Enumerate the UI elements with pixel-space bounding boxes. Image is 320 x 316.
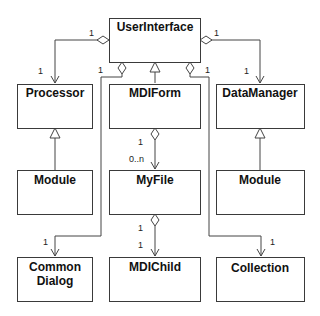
aggregation-diamond-ui-commondialog [118,62,126,74]
mult-ui-datamanager-from: 1 [214,28,219,38]
mult-ui-commondialog-to: 1 [43,237,48,247]
edge-ui-datamanager [208,40,260,83]
generalization-triangle-processor [50,128,60,138]
aggregation-diamond-myfile-mdichild [151,214,159,226]
mult-ui-collection-to: 1 [270,237,275,247]
class-title-processor: Processor [26,86,85,100]
mult-myfile-mdichild-from: 1 [138,223,143,233]
class-title-module-right: Module [239,173,281,187]
aggregation-diamond-mdiform-myfile [151,128,159,140]
edge-ui-processor [55,40,102,83]
class-title-module-left: Module [34,173,76,187]
class-title-commondialog-line2: Dialog [37,274,74,288]
class-processor[interactable]: Processor [18,85,93,129]
class-commondialog[interactable]: Common Dialog [18,258,93,302]
class-title-mdichild: MDIChild [129,260,181,274]
class-datamanager[interactable]: DataManager [217,85,305,129]
class-mdiform[interactable]: MDIForm [110,85,201,129]
aggregation-diamond-ui-processor [97,36,109,44]
class-userinterface[interactable]: UserInterface [110,19,201,63]
aggregation-diamond-ui-collection [186,62,194,74]
class-title-mdiform: MDIForm [129,86,181,100]
aggregation-diamond-ui-datamanager [200,36,212,44]
mult-myfile-mdichild-to: 1 [138,240,143,250]
class-title-datamanager: DataManager [222,86,298,100]
mult-ui-commondialog-from: 1 [98,65,103,75]
class-title-myfile: MyFile [136,173,174,187]
mult-ui-collection-from: 1 [205,65,210,75]
uml-diagram: UserInterface Processor MDIForm DataMana… [0,0,320,316]
generalization-triangle-datamanager [255,128,265,138]
mult-mdiform-myfile-from: 1 [138,137,143,147]
class-module-right[interactable]: Module [217,171,305,215]
class-title-collection: Collection [231,261,289,275]
class-module-left[interactable]: Module [18,171,93,215]
class-title-userinterface: UserInterface [117,20,194,34]
mult-ui-processor-from: 1 [89,28,94,38]
class-title-commondialog-line1: Common [29,260,81,274]
class-myfile[interactable]: MyFile [110,171,201,215]
class-mdichild[interactable]: MDIChild [110,258,201,302]
mult-ui-processor-to: 1 [38,66,43,76]
generalization-triangle-ui [150,62,160,72]
mult-mdiform-myfile-to: 0..n [129,154,144,164]
class-collection[interactable]: Collection [217,258,305,302]
mult-ui-datamanager-to: 1 [244,66,249,76]
